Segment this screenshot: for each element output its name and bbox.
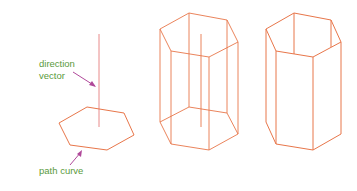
wireframe-prism xyxy=(160,13,238,150)
direction-vector-label: direction vector xyxy=(39,58,75,82)
extrusion-diagram: direction vector path curve xyxy=(0,0,357,191)
path-curve-label: path curve xyxy=(39,165,83,177)
path-curve-hexagon xyxy=(59,107,134,150)
diagram-graphics xyxy=(0,0,357,191)
solid-prism xyxy=(266,13,341,150)
direction-arrowhead-icon xyxy=(89,81,96,87)
direction-vector-label-line1: direction xyxy=(39,58,75,70)
direction-vector-label-line2: vector xyxy=(39,70,75,82)
